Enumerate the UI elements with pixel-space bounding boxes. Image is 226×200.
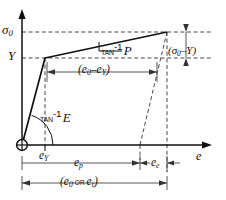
tan-exponent-p: -1 (114, 41, 122, 52)
x-axis-strain-label: e (196, 150, 201, 162)
e0eY-close-paren: ) (106, 63, 110, 75)
dim-ee-arrow-left (140, 161, 147, 166)
dim-total-arrow-right (159, 180, 167, 186)
stress-strain-figure: σ0 Y e TAN-1P TAN-1E (σ0–Y) (e0–eY) eY e… (0, 0, 226, 200)
ep-subscript: p (79, 161, 83, 170)
sigmaY-close-paren: ) (192, 44, 196, 56)
tan-exponent-e: -1 (53, 108, 61, 119)
y-axis-sigma0-label: σ0 (2, 23, 13, 38)
figure-canvas (0, 0, 226, 200)
stress-strain-curve (22, 32, 167, 145)
dim-ep-arrow-right (132, 160, 140, 166)
ep-label: ep (74, 157, 83, 170)
dim-total-arrow-left (22, 180, 30, 186)
e0-minus-eY-label: (e0–eY) (78, 64, 110, 77)
hardening-slope-annotation: TAN-1P (101, 42, 132, 58)
strain-symbol: e (196, 149, 201, 163)
axes-group (22, 15, 206, 145)
etotal-or-word: OR (75, 179, 85, 186)
elastic-modulus-symbol: E (63, 110, 71, 125)
etotal-e0-subscript: 0 (69, 180, 73, 189)
y-axis-arrowhead (18, 9, 25, 19)
dim-ee-arrow-right (167, 161, 174, 166)
dim-sigmaY-arrow-bottom (183, 58, 189, 66)
e0-or-et-label: (e0ORet) (60, 176, 98, 189)
unloading-line (140, 32, 167, 145)
tan-prefix-e: TAN (40, 116, 53, 123)
dim-e0eY-arrow-left (47, 69, 55, 75)
ee-label: ee (151, 157, 160, 170)
x-axis-arrowhead (202, 141, 212, 148)
sigma0-subscript: 0 (8, 28, 12, 38)
y-axis-yield-label: Y (8, 49, 15, 62)
loading-path (22, 32, 167, 145)
etotal-close-paren: ) (94, 175, 98, 187)
elastic-slope-annotation: TAN-1E (40, 109, 71, 125)
yield-symbol: Y (8, 48, 15, 63)
dim-sigmaY-arrow-top (183, 24, 189, 32)
origin-marker-group (17, 140, 28, 151)
hardening-modulus-symbol: P (124, 43, 132, 58)
ee-subscript: e (156, 161, 159, 170)
dim-e0eY-arrow-right (149, 69, 157, 75)
sigma0-minus-Y-label: (σ0–Y) (168, 45, 196, 58)
eY-label: eY (39, 150, 48, 163)
tan-prefix-p: TAN (101, 49, 114, 56)
eY-subscript: Y (44, 154, 48, 163)
